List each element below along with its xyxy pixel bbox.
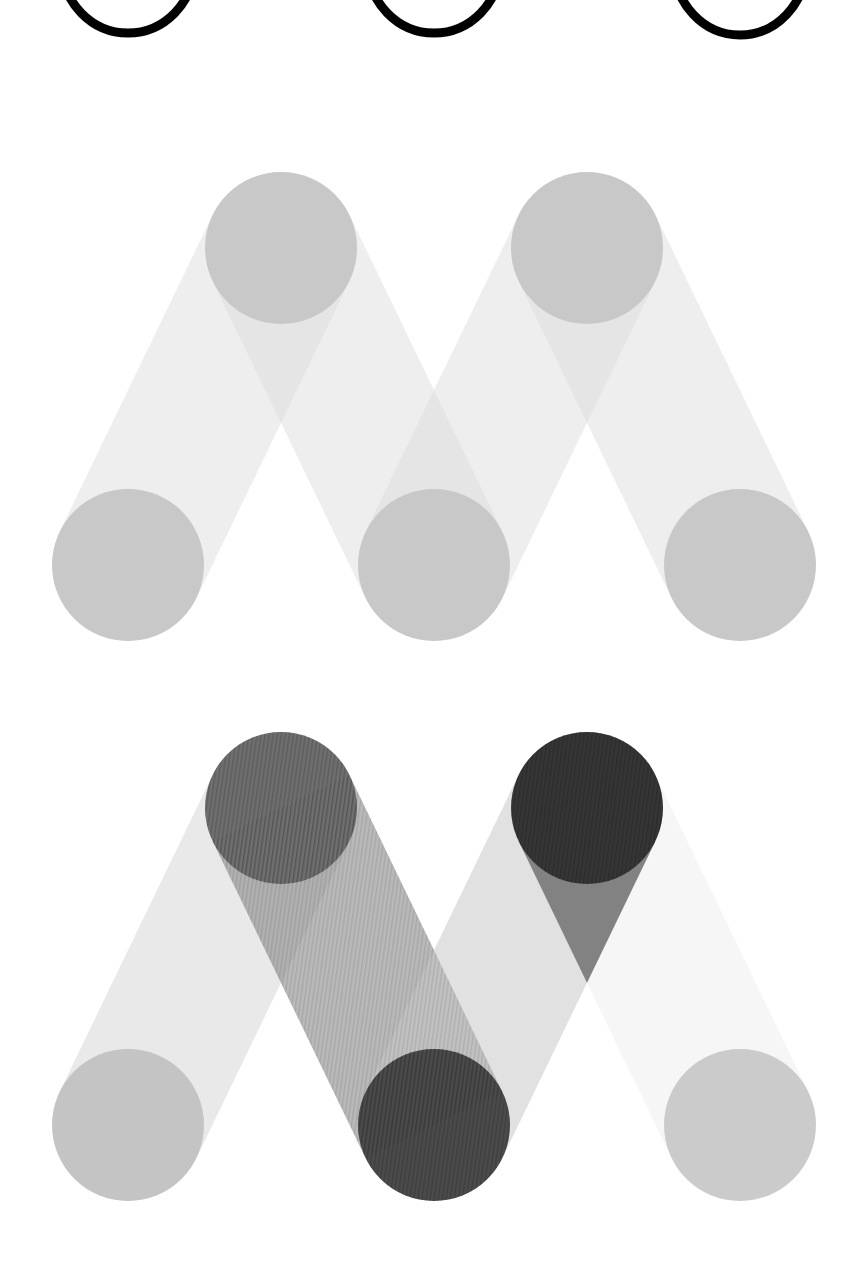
top-black-rings (62, 0, 806, 35)
m-logo-construction-diagram (0, 0, 865, 1282)
circle-t2 (511, 172, 663, 324)
circle-b3 (664, 1049, 816, 1201)
circle-b1 (52, 489, 204, 641)
m-light-construction (52, 172, 816, 641)
stripe-texture-t2 (511, 732, 663, 884)
circle-b1 (52, 1049, 204, 1201)
black-ring-2 (368, 0, 500, 33)
circle-b2 (358, 489, 510, 641)
black-ring-3 (674, 0, 806, 35)
black-ring-1 (62, 0, 194, 33)
m-shaded-construction (52, 732, 816, 1201)
circle-b3 (664, 489, 816, 641)
circle-t1 (205, 172, 357, 324)
